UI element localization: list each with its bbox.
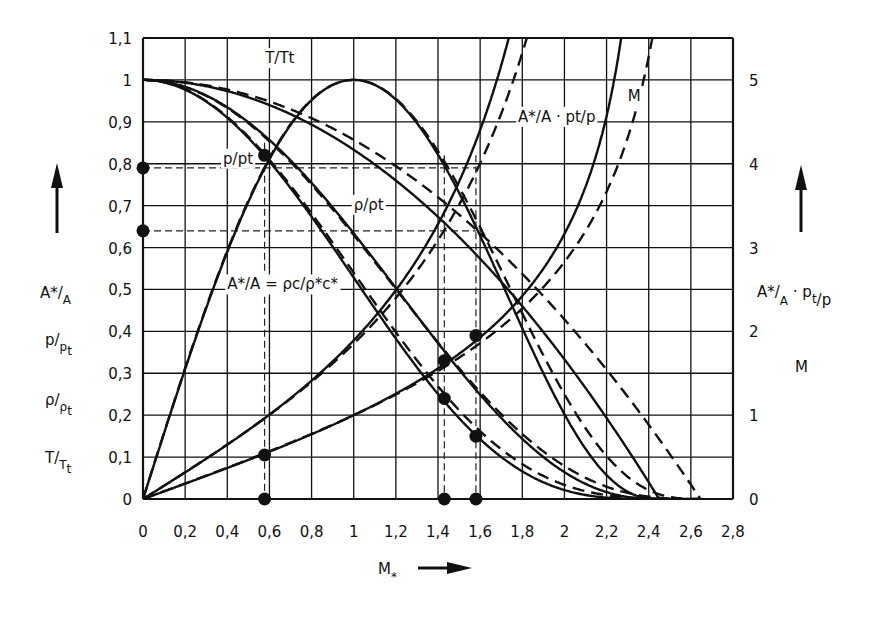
curve-label: M: [628, 87, 641, 105]
curve-label: p/pt: [223, 150, 253, 168]
right-tick-label: 2: [749, 323, 759, 341]
curve-label: ρ/ρt: [354, 196, 384, 214]
curve-label: A*/A = ρc/ρ*c*: [227, 275, 338, 293]
x-tick-label: 1,2: [384, 523, 408, 541]
curves: [143, 0, 701, 499]
curve-label: A*/A · pt/p: [518, 108, 595, 126]
left-tick-label: 0,2: [108, 407, 132, 425]
x-tick-label: 2,6: [679, 523, 703, 541]
curve-label: T/Tt: [264, 49, 294, 67]
x-axis-label: M*: [378, 560, 472, 584]
right-tick-label: 1: [749, 407, 759, 425]
left-tick-label: 0,3: [108, 365, 132, 383]
left-label-a: A*/A: [40, 284, 72, 307]
x-tick-label: 0,4: [215, 523, 239, 541]
x-tick-label: 2,2: [595, 523, 619, 541]
right-label-astar: A*/A · pt/p: [757, 283, 831, 309]
up-arrow-head-left: [51, 163, 63, 188]
x-tick-label: 0: [138, 523, 148, 541]
right-tick-label: 5: [749, 72, 759, 90]
data-marker: [137, 224, 150, 237]
left-tick-label: 0,8: [108, 156, 132, 174]
data-marker: [258, 448, 271, 461]
right-tick-label: 3: [749, 240, 759, 258]
curve-a-a-pt-p-dashed: [143, 0, 538, 499]
data-marker: [438, 354, 451, 367]
right-axis-label: A*/A · pt/p M: [757, 165, 831, 376]
x-label: M*: [378, 560, 397, 584]
x-tick-label: 1,8: [510, 523, 534, 541]
x-tick-label: 0,8: [300, 523, 324, 541]
left-tick-label: 0,4: [108, 323, 132, 341]
x-tick-label: 0,2: [173, 523, 197, 541]
left-tick-label: 0,6: [108, 240, 132, 258]
data-marker: [469, 329, 482, 342]
x-tick-label: 0,6: [257, 523, 281, 541]
data-marker: [469, 493, 482, 506]
left-label-p: p/pt: [45, 331, 72, 358]
reference-lines: [143, 143, 476, 499]
right-label-m: M: [795, 358, 808, 376]
x-tick-labels: 00,20,40,60,811,21,41,61,822,22,42,62,8: [138, 523, 745, 541]
data-marker: [438, 493, 451, 506]
left-tick-label: 1: [122, 72, 132, 90]
right-tick-label: 0: [749, 491, 759, 509]
data-marker: [137, 161, 150, 174]
x-tick-label: 1: [349, 523, 359, 541]
left-axis-label: A*/A p/pt ρ/ρt T/Tt: [40, 163, 72, 476]
curve-a-a-pt-p-solid: [143, 0, 519, 499]
left-tick-label: 0,1: [108, 449, 132, 467]
left-label-rho: ρ/ρt: [45, 391, 72, 418]
data-marker: [258, 149, 271, 162]
x-tick-label: 1,6: [468, 523, 492, 541]
data-marker: [469, 430, 482, 443]
up-arrow-head-right: [795, 165, 807, 190]
right-tick-label: 4: [749, 156, 759, 174]
grid: [143, 38, 733, 499]
left-tick-label: 0,9: [108, 114, 132, 132]
left-tick-label: 1,1: [108, 30, 132, 48]
left-label-t: T/Tt: [44, 449, 72, 476]
data-marker: [258, 493, 271, 506]
x-tick-label: 2,4: [637, 523, 661, 541]
x-tick-label: 2,8: [721, 523, 745, 541]
left-tick-label: 0,7: [108, 198, 132, 216]
left-tick-label: 0: [122, 491, 132, 509]
curve-m-dashed: [143, 0, 659, 499]
curve-m-solid: [143, 0, 627, 499]
right-arrow-head: [447, 562, 472, 574]
x-tick-label: 1,4: [426, 523, 450, 541]
x-tick-label: 2: [560, 523, 570, 541]
left-tick-labels: 00,10,20,30,40,50,60,70,80,911,1: [108, 30, 132, 509]
data-marker: [438, 392, 451, 405]
chart: 00,20,40,60,811,21,41,61,822,22,42,62,8 …: [0, 0, 876, 626]
markers: [137, 149, 483, 506]
curve-annotations: T/Ttp/ptρ/ρtA*/A = ρc/ρ*c*A*/A · pt/pM: [221, 48, 643, 294]
left-tick-label: 0,5: [108, 281, 132, 299]
